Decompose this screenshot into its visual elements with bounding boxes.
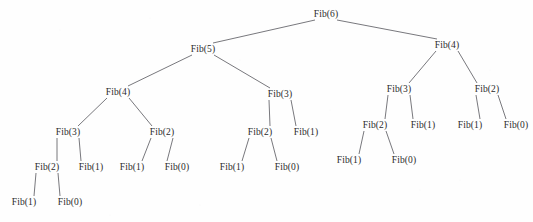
tree-edge [79,138,81,161]
tree-node: Fib(1) [220,162,244,173]
tree-node: Fib(1) [458,120,482,131]
tree-edge [291,100,296,126]
tree-edge [385,95,388,119]
tree-edge [142,138,151,161]
tree-node: Fib(1) [79,162,103,173]
tree-node: Fib(0) [504,120,528,131]
tree-node: Fib(1) [337,155,361,166]
tree-edge [271,138,277,161]
tree-node: Fib(2) [475,84,499,95]
tree-node: Fib(3) [56,127,80,138]
tree-node: Fib(4) [106,87,130,98]
tree-node: Fib(1) [294,127,318,138]
tree-edge [458,51,477,83]
tree-node: Fib(2) [248,127,272,138]
tree-node: Fib(4) [435,40,459,51]
tree-edge [214,55,270,88]
tree-node: Fib(2) [35,162,59,173]
tree-edge [128,55,192,86]
tree-edge [213,20,315,43]
tree-edge [410,95,413,119]
tree-node: Fib(2) [363,120,387,131]
tree-node: Fib(0) [275,162,299,173]
tree-edge [337,20,437,39]
tree-edge [78,98,107,126]
tree-edge [242,138,249,161]
tree-edge [409,51,436,83]
tree-node: Fib(6) [314,9,338,20]
tree-node: Fib(1) [411,120,435,131]
tree-edge-layer [0,0,533,222]
tree-node: Fib(3) [387,84,411,95]
tree-edge [34,173,36,196]
tree-edge [359,131,364,154]
tree-edge [129,98,152,126]
tree-edge [386,131,394,154]
tree-node: Fib(2) [150,127,174,138]
tree-edge [269,100,270,126]
tree-node: Fib(1) [12,197,36,208]
fibonacci-recursion-tree: Fib(6)Fib(5)Fib(4)Fib(4)Fib(3)Fib(3)Fib(… [0,0,533,222]
tree-node: Fib(0) [165,162,189,173]
tree-node: Fib(3) [268,89,292,100]
tree-node: Fib(5) [191,44,215,55]
tree-edge [498,95,506,119]
tree-node: Fib(1) [120,162,144,173]
tree-edge [167,138,173,161]
tree-node: Fib(0) [58,197,82,208]
tree-node: Fib(0) [392,155,416,166]
tree-edge [58,173,60,196]
tree-edge [476,95,480,119]
